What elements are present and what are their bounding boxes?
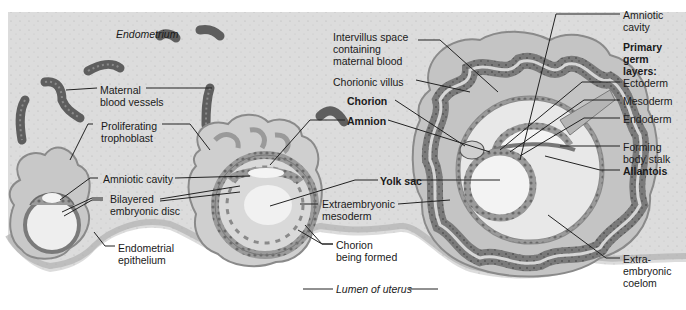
label-allantois: Allantois bbox=[623, 165, 667, 177]
label-chorion-being-formed: Chorion being formed bbox=[336, 239, 397, 263]
label-lumen-of-uterus: Lumen of uterus bbox=[336, 283, 412, 295]
embryo-stage-2 bbox=[189, 115, 322, 266]
embryo-stage-1 bbox=[10, 148, 90, 259]
label-amniotic-cavity-right: Amniotic cavity bbox=[623, 9, 663, 33]
implantation-diagram: Endometrium Lumen of uterus Maternal blo… bbox=[0, 0, 686, 310]
embryo-stage-3 bbox=[413, 32, 658, 277]
label-endoderm: Endoderm bbox=[623, 113, 671, 125]
label-proliferating-trophoblast: Proliferating trophoblast bbox=[101, 120, 157, 144]
label-endometrial-epithelium: Endometrial epithelium bbox=[118, 242, 174, 266]
label-amniotic-cavity-left: Amniotic cavity bbox=[103, 173, 173, 185]
label-endometrium: Endometrium bbox=[116, 28, 178, 40]
label-extraembryonic-mesoderm: Extraembryonic mesoderm bbox=[322, 198, 395, 222]
label-bilayered-embryonic-disc: Bilayered embryonic disc bbox=[110, 193, 180, 217]
label-ectoderm: Ectoderm bbox=[623, 77, 668, 89]
label-chorionic-villus: Chorionic villus bbox=[333, 76, 404, 88]
label-chorion: Chorion bbox=[347, 95, 387, 107]
label-yolk-sac: Yolk sac bbox=[380, 175, 422, 187]
label-primary-germ-layers: Primary germ layers: bbox=[623, 41, 662, 77]
label-extra-embryonic-coelom: Extra- embryonic coelom bbox=[623, 253, 671, 289]
label-amnion: Amnion bbox=[347, 115, 386, 127]
label-maternal-blood-vessels: Maternal blood vessels bbox=[100, 84, 164, 108]
label-intervillus-space: Intervillus space containing maternal bl… bbox=[333, 31, 408, 67]
label-forming-body-stalk: Forming body stalk bbox=[623, 141, 670, 165]
label-mesoderm: Mesoderm bbox=[623, 95, 673, 107]
